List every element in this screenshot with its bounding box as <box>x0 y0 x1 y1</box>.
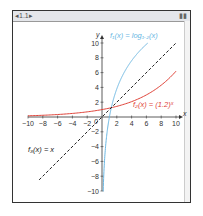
plot-area: xy−10−8−6−4−2246810108642−2−4−6−8−100f₁(… <box>0 0 203 216</box>
x-tick-label: −10 <box>22 120 34 127</box>
x-tick-label: −2 <box>83 120 91 127</box>
y-tick-label: −6 <box>91 158 99 165</box>
x-tick-label: 8 <box>159 120 163 127</box>
f2-label: f₂(x) = (1.2)ˣ <box>133 100 174 109</box>
x-axis-label: x <box>182 110 187 117</box>
f3-line <box>39 43 176 180</box>
x-tick-label: 10 <box>172 120 180 127</box>
y-tick-label: −8 <box>91 173 99 180</box>
y-tick-label: 2 <box>95 99 99 106</box>
y-tick-label: −2 <box>91 128 99 135</box>
y-tick-label: −10 <box>87 188 99 195</box>
x-tick-label: −8 <box>39 120 47 127</box>
f3-label: f₃(x) = x <box>28 145 54 154</box>
x-tick-label: −6 <box>54 120 62 127</box>
x-tick-label: 6 <box>144 120 148 127</box>
x-tick-label: −4 <box>68 120 76 127</box>
y-tick-label: 6 <box>95 69 99 76</box>
y-tick-label: 4 <box>95 84 99 91</box>
x-tick-label: 4 <box>130 120 134 127</box>
y-tick-label: 8 <box>95 54 99 61</box>
y-tick-label: 10 <box>91 40 99 47</box>
y-tick-label: −4 <box>91 143 99 150</box>
f1-label: f₁(x) = log₁.₂(x) <box>110 31 158 40</box>
y-axis-label: y <box>95 31 100 39</box>
x-tick-label: 2 <box>115 120 119 127</box>
y-arrow-icon <box>100 35 104 39</box>
